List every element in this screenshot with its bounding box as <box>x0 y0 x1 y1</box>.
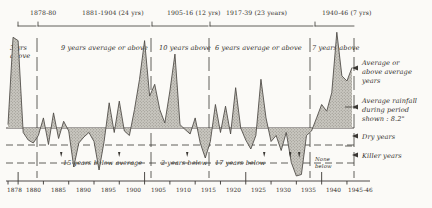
period-bracket-p2 <box>38 22 150 26</box>
period-bracket-p5 <box>315 22 354 26</box>
chart-drawing-layer <box>0 0 432 208</box>
period-bracket-p1 <box>18 22 36 26</box>
period-bracket-group <box>18 22 354 26</box>
below-pointer-a <box>60 152 62 157</box>
below-pointer-c <box>186 152 188 157</box>
x-axis-group <box>6 172 370 185</box>
legend-average-arrow-icon <box>352 104 358 109</box>
period-bracket-p3 <box>152 22 208 26</box>
rainfall-series-area <box>8 32 352 176</box>
below-pointer-b <box>118 152 120 157</box>
legend-killer-arrow-icon <box>352 152 358 157</box>
below-pointer-d <box>263 152 265 157</box>
legend-dry-arrow-icon <box>352 133 358 138</box>
rainfall-deviation-chart: 1878-80 1881-1904 (24 yrs) 1905-16 (12 y… <box>0 0 432 208</box>
period-bracket-p4 <box>210 22 313 26</box>
period-divider-group <box>37 38 354 178</box>
legend-above-arrow-icon <box>352 65 358 70</box>
